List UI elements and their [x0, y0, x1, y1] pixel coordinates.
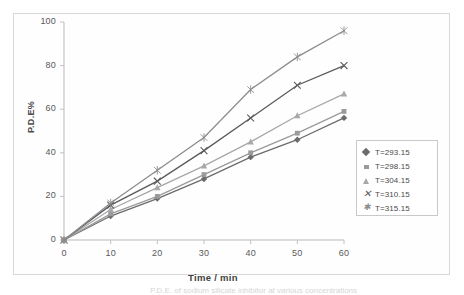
x-tick-label: 60 [331, 248, 357, 258]
legend-item-t29815[interactable]: T=298.15 [361, 159, 437, 173]
figure-caption-fragment: P.D.E. of sodium silicate inhibitor at v… [150, 286, 464, 295]
x-tick-label: 0 [51, 248, 77, 258]
star-marker-icon: ✱ [361, 203, 372, 214]
x-tick-label: 40 [238, 248, 264, 258]
legend-label: T=298.15 [375, 162, 410, 171]
x-tick-label: 50 [284, 248, 310, 258]
y-tick-label: 100 [30, 16, 56, 26]
series-line-3 [61, 62, 348, 243]
diamond-marker-icon [361, 147, 372, 158]
square-marker-icon [361, 161, 372, 172]
series-line-4 [61, 27, 348, 245]
x-tick-label: 20 [144, 248, 170, 258]
x-tick-label: 10 [98, 248, 124, 258]
y-axis-title: P.D.E% [26, 82, 36, 152]
legend-label: T=304.15 [375, 176, 410, 185]
x-tick-label: 30 [191, 248, 217, 258]
x-marker-icon: ✕ [361, 189, 372, 200]
y-tick-label: 0 [30, 234, 56, 244]
x-axis-title: Time / min [118, 272, 308, 283]
y-tick-label: 80 [30, 60, 56, 70]
legend-label: T=293.15 [375, 148, 410, 157]
y-tick-label: 20 [30, 190, 56, 200]
y-tick-label: 40 [30, 147, 56, 157]
y-tick-label: 60 [30, 103, 56, 113]
triangle-marker-icon [361, 175, 372, 186]
legend-item-t29315[interactable]: T=293.15 [361, 145, 437, 159]
legend-item-t31515[interactable]: ✱ T=315.15 [361, 201, 437, 215]
chart-legend: T=293.15 T=298.15 T=304.15 ✕ T=310.15 ✱ … [356, 140, 438, 216]
legend-item-t30415[interactable]: T=304.15 [361, 173, 437, 187]
legend-label: T=315.15 [375, 204, 410, 213]
legend-label: T=310.15 [375, 190, 410, 199]
legend-item-t31015[interactable]: ✕ T=310.15 [361, 187, 437, 201]
series-line-1 [62, 109, 347, 242]
